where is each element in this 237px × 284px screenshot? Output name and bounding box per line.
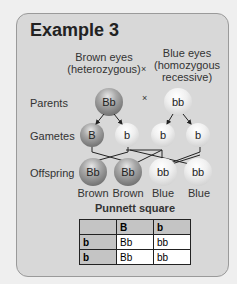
punnett-title: Punnett square (80, 202, 190, 214)
punnett-cell: Bb (117, 235, 154, 250)
punnett-cell: Bb (117, 250, 154, 265)
offspring-ball-2: Bb (114, 158, 142, 186)
offspring-phenotype-2: Brown (109, 187, 147, 199)
offspring-phenotype-3: Blue (144, 187, 182, 199)
punnett-cell: bb (154, 235, 191, 250)
punnett-row: b Bb bb (80, 235, 191, 250)
punnett-corner-cell (80, 220, 117, 235)
punnett-header-row: B b (80, 220, 191, 235)
punnett-square: B b b Bb bb b Bb bb (79, 219, 191, 265)
punnett-header-cell: b (154, 220, 191, 235)
punnett-row: b Bb bb (80, 250, 191, 265)
punnett-row-header: b (80, 250, 117, 265)
offspring-phenotype-4: Blue (180, 187, 218, 199)
offspring-phenotype-1: Brown (74, 187, 112, 199)
punnett-cell: bb (154, 250, 191, 265)
punnett-header-cell: B (117, 220, 154, 235)
offspring-ball-4: bb (184, 158, 212, 186)
punnett-row-header: b (80, 235, 117, 250)
offspring-ball-1: Bb (79, 158, 107, 186)
offspring-ball-3: bb (149, 158, 177, 186)
